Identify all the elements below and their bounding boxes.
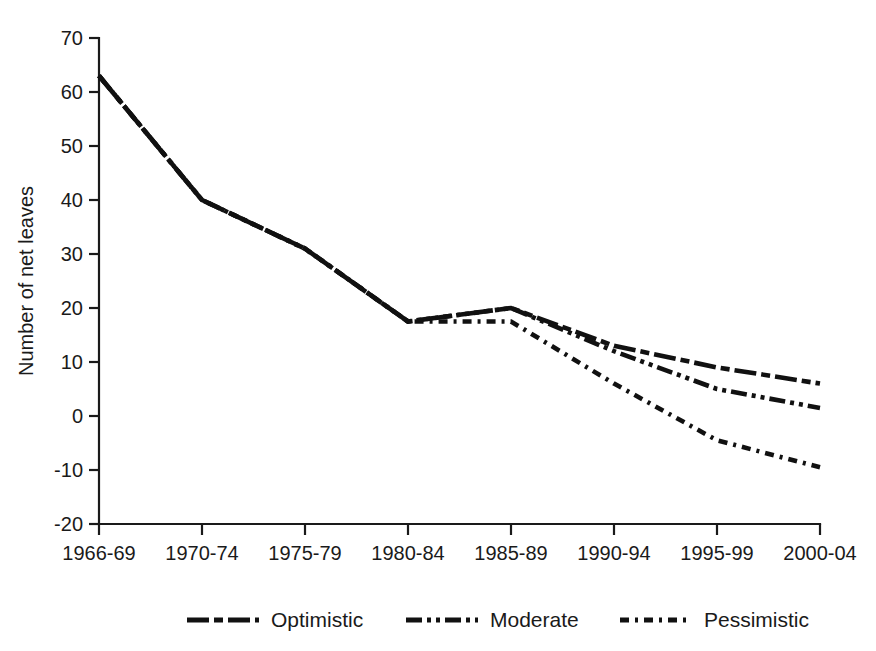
y-tick-label: 60 <box>61 81 83 103</box>
x-tick-label: 1990-94 <box>577 542 650 564</box>
y-tick-label: 70 <box>61 27 83 49</box>
legend-label-moderate: Moderate <box>490 608 579 631</box>
chart-legend: OptimisticModeratePessimistic <box>187 608 809 631</box>
x-tick-label: 2000-04 <box>783 542 856 564</box>
y-tick-label: 20 <box>61 297 83 319</box>
y-axis-title: Number of net leaves <box>15 186 37 376</box>
y-tick-label: 50 <box>61 135 83 157</box>
x-tick-label: 1966-69 <box>62 542 135 564</box>
y-tick-label: -20 <box>54 513 83 535</box>
y-tick-label: 30 <box>61 243 83 265</box>
x-tick-label: 1980-84 <box>371 542 444 564</box>
y-tick-label: 0 <box>72 405 83 427</box>
x-tick-label: 1975-79 <box>268 542 341 564</box>
line-chart: -20-10010203040506070 1966-691970-741975… <box>0 0 876 651</box>
x-tick-label: 1995-99 <box>680 542 753 564</box>
legend-label-pessimistic: Pessimistic <box>704 608 809 631</box>
legend-label-optimistic: Optimistic <box>271 608 363 631</box>
y-tick-label: 10 <box>61 351 83 373</box>
x-tick-label: 1970-74 <box>165 542 238 564</box>
chart-figure: -20-10010203040506070 1966-691970-741975… <box>0 0 876 651</box>
y-tick-label: -10 <box>54 459 83 481</box>
x-tick-label: 1985-89 <box>474 542 547 564</box>
y-tick-label: 40 <box>61 189 83 211</box>
